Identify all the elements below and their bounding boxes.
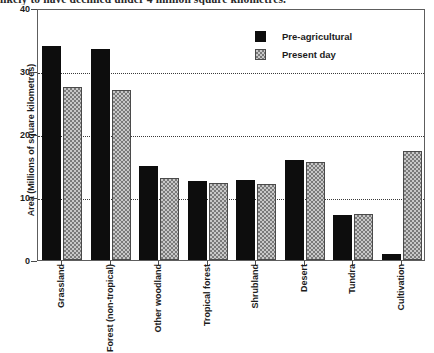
bar-present-day	[160, 178, 179, 260]
x-axis-label-shrubland: Shrubland	[248, 264, 262, 352]
x-axis-label-grassland: Grassland	[54, 264, 68, 352]
y-axis-tick	[31, 72, 37, 73]
bar-pre-agricultural	[382, 254, 401, 260]
bar-group	[42, 8, 82, 260]
x-axis-tick-label: Other woodland	[153, 264, 163, 333]
x-axis-tick-label: Tundra	[347, 264, 357, 294]
x-axis-tick-label: Grassland	[56, 264, 66, 308]
x-axis-tick-label: Desert	[299, 264, 309, 292]
legend-label-present-day: Present day	[282, 49, 336, 60]
bar-present-day	[306, 162, 325, 260]
bar-present-day	[257, 184, 276, 260]
legend-swatch-icon-present-day	[255, 49, 266, 60]
y-axis-tick-label: 0	[4, 256, 30, 266]
bar-pre-agricultural	[188, 181, 207, 260]
bar-present-day	[209, 183, 228, 260]
legend-swatch-icon-pre-agricultural	[255, 31, 266, 42]
bar-present-day	[63, 87, 82, 260]
y-axis-tick-label: 40	[4, 4, 30, 14]
bar-chart: 010203040 Area (Millions of square kilom…	[0, 0, 434, 353]
x-axis-label-desert: Desert	[297, 264, 311, 352]
y-axis-tick	[31, 198, 37, 199]
bar-pre-agricultural	[285, 160, 304, 260]
bar-group	[188, 8, 228, 260]
legend-item-pre-agricultural: Pre-agricultural	[255, 29, 415, 44]
x-axis-tick-label: Shrubland	[250, 264, 260, 309]
bar-pre-agricultural	[42, 46, 61, 260]
bar-present-day	[112, 90, 131, 260]
x-axis-tick-label: Forest (non-tropical)	[105, 264, 115, 352]
bar-present-day	[403, 151, 422, 260]
y-axis-tick	[31, 135, 37, 136]
x-axis-label-tundra: Tundra	[345, 264, 359, 352]
y-axis-tick	[31, 9, 37, 10]
x-axis-label-tropical-forest: Tropical forest	[200, 264, 214, 352]
y-axis-title: Area (Millions of square kilometres)	[26, 55, 36, 225]
x-axis-label-cultivation: Cultivation	[394, 264, 408, 352]
y-axis-tick	[31, 261, 37, 262]
bar-pre-agricultural	[236, 180, 255, 260]
x-axis-label-other-woodland: Other woodland	[151, 264, 165, 352]
x-axis-tick-label: Tropical forest	[202, 264, 212, 326]
x-axis-label-forest-non-tropical: Forest (non-tropical)	[103, 264, 117, 352]
legend-item-present-day: Present day	[255, 47, 415, 62]
bar-group	[91, 8, 131, 260]
legend-label-pre-agricultural: Pre-agricultural	[282, 31, 352, 42]
bar-pre-agricultural	[333, 215, 352, 260]
bar-pre-agricultural	[139, 166, 158, 261]
bar-group	[139, 8, 179, 260]
bar-present-day	[354, 214, 373, 260]
chart-legend: Pre-agricultural Present day	[255, 29, 415, 65]
bar-pre-agricultural	[91, 49, 110, 260]
x-axis-tick-label: Cultivation	[396, 264, 406, 311]
